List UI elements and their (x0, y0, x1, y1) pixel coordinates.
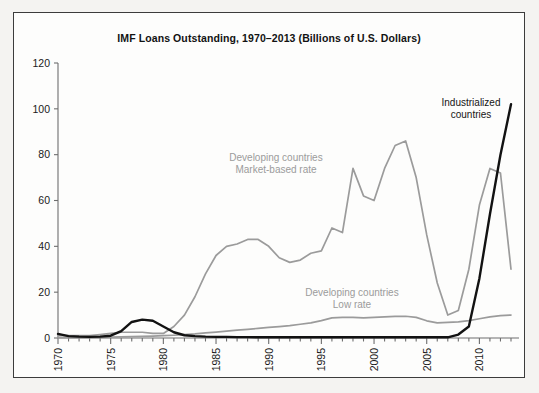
series-annotation-label: Developing countries (229, 152, 322, 163)
x-tick-label: 1995 (315, 348, 327, 372)
series-annotation-label: Market-based rate (235, 164, 317, 175)
x-tick-label: 1980 (157, 348, 169, 372)
figure-border-box: IMF Loans Outstanding, 1970–2013 (Billio… (13, 12, 525, 378)
x-tick-label: 2005 (421, 348, 433, 372)
series-annotation-label: Industrialized (442, 97, 501, 108)
y-tick-label: 120 (32, 57, 50, 69)
y-tick-label: 40 (38, 240, 50, 252)
series-annotation-label: countries (451, 109, 492, 120)
figure-root: IMF Loans Outstanding, 1970–2013 (Billio… (0, 0, 539, 393)
x-tick-label: 1985 (210, 348, 222, 372)
y-tick-label: 80 (38, 148, 50, 160)
y-axis: 020406080100120 (32, 57, 58, 344)
x-tick-label: 2010 (473, 348, 485, 372)
series-annotation-label: Developing countries (305, 287, 398, 298)
line-chart-plot: 020406080100120 197019751980198519901995… (14, 13, 526, 379)
y-tick-label: 0 (44, 332, 50, 344)
caption-partial-text (14, 381, 514, 390)
y-tick-label: 60 (38, 194, 50, 206)
y-tick-label: 20 (38, 286, 50, 298)
x-axis: 197019751980198519901995200020052010 (52, 338, 519, 371)
x-tick-label: 2000 (368, 348, 380, 372)
x-tick-label: 1975 (105, 348, 117, 372)
series-annotations: Developing countriesMarket-based rateDev… (229, 97, 500, 310)
series-annotation-label: Low rate (333, 299, 372, 310)
series-lines (58, 104, 511, 337)
x-tick-label: 1970 (52, 348, 64, 372)
y-tick-label: 100 (32, 103, 50, 115)
x-tick-label: 1990 (263, 348, 275, 372)
